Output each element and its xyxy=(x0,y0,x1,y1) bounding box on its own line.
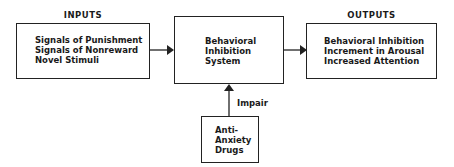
drug-line-3: Drugs xyxy=(215,145,243,155)
system-line-1: Behavioral xyxy=(205,36,256,46)
output-1: Behavioral Inhibition xyxy=(324,36,424,46)
input-1: Signals of Punishment xyxy=(35,35,142,45)
drug-line-1: Anti- xyxy=(215,125,238,135)
drug-box: Anti- Anxiety Drugs xyxy=(201,116,259,163)
drug-line-2: Anxiety xyxy=(215,135,251,145)
inputs-heading: INPUTS xyxy=(16,10,150,20)
output-3: Increased Attention xyxy=(324,56,419,66)
outputs-box: Behavioral Inhibition Increment in Arous… xyxy=(306,23,437,79)
system-line-3: System xyxy=(205,56,240,66)
output-2: Increment in Arousal xyxy=(324,46,424,56)
system-line-2: Inhibition xyxy=(205,46,251,56)
inputs-box: Signals of Punishment Signals of Nonrewa… xyxy=(16,23,150,79)
input-2: Signals of Nonreward xyxy=(35,45,138,55)
system-box: Behavioral Inhibition System xyxy=(174,16,284,84)
outputs-heading: OUTPUTS xyxy=(306,10,437,20)
input-3: Novel Stimuli xyxy=(35,55,99,65)
impair-label: Impair xyxy=(237,98,268,108)
